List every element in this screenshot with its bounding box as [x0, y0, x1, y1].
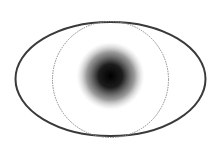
eye-diagram-svg: [0, 0, 221, 153]
eye-diagram: [0, 0, 221, 153]
pupil: [77, 42, 145, 110]
